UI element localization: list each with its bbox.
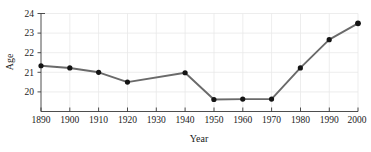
chart-figure: 24 23 22 21 20 1890 1900 1910 1920 1930 …	[0, 0, 371, 152]
data-point-1940	[182, 70, 187, 75]
data-point-2000	[355, 20, 361, 26]
xtick-label-1910: 1910	[89, 115, 108, 125]
xtick-label-1980: 1980	[291, 115, 310, 125]
ytick-label-21: 21	[25, 68, 35, 78]
xtick-label-1960: 1960	[233, 115, 252, 125]
line-chart: 24 23 22 21 20 1890 1900 1910 1920 1930 …	[0, 0, 371, 152]
ytick-label-23: 23	[25, 28, 35, 38]
xtick-label-1930: 1930	[147, 115, 166, 125]
ytick-label-20: 20	[25, 87, 35, 97]
xtick-label-1970: 1970	[262, 115, 281, 125]
data-point-1900	[67, 65, 72, 70]
xtick-label-1950: 1950	[205, 115, 224, 125]
xtick-label-1990: 1990	[320, 115, 339, 125]
x-axis-title: Year	[190, 133, 209, 144]
data-point-1970	[269, 96, 274, 101]
xtick-label-1940: 1940	[176, 115, 195, 125]
ytick-label-24: 24	[25, 9, 35, 19]
xtick-label-1900: 1900	[60, 115, 79, 125]
data-point-1960	[240, 96, 245, 101]
ytick-label-22: 22	[25, 48, 35, 58]
data-point-1950	[211, 97, 216, 102]
xtick-label-1890: 1890	[32, 115, 51, 125]
data-point-1890	[38, 63, 43, 68]
data-point-1990	[327, 37, 332, 42]
data-point-1910	[96, 70, 101, 75]
y-axis-title: Age	[4, 53, 15, 70]
data-point-1920	[125, 80, 130, 85]
xtick-label-1920: 1920	[118, 115, 137, 125]
xtick-label-2000: 2000	[348, 115, 367, 125]
data-point-1980	[298, 65, 303, 70]
